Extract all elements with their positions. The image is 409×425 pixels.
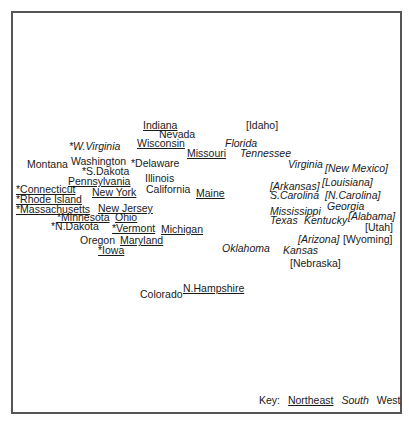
state-label: [Idaho] bbox=[246, 120, 278, 131]
state-label: [Nebraska] bbox=[290, 258, 341, 269]
state-label: Texas bbox=[270, 215, 298, 226]
state-label: *N.Dakota bbox=[51, 221, 99, 232]
state-label: Michigan bbox=[161, 224, 203, 235]
legend-northeast: Northeast bbox=[288, 394, 334, 406]
state-label: Kansas bbox=[283, 245, 318, 256]
legend-west: West bbox=[377, 394, 401, 406]
state-label: [New Mexico] bbox=[325, 163, 388, 174]
state-label: Kentucky bbox=[304, 215, 347, 226]
state-label: N.Hampshire bbox=[183, 283, 244, 294]
state-label: *Iowa bbox=[98, 245, 124, 256]
state-label: Tennessee bbox=[240, 148, 291, 159]
state-label: Virginia bbox=[288, 159, 323, 170]
legend: Key: Northeast South West bbox=[259, 394, 406, 406]
state-label: California bbox=[146, 184, 190, 195]
state-label: [Louisiana] bbox=[322, 177, 373, 188]
legend-south: South bbox=[341, 394, 368, 406]
state-label: New York bbox=[92, 187, 136, 198]
state-label: Oklahoma bbox=[222, 243, 270, 254]
state-label: *Delaware bbox=[131, 158, 179, 169]
legend-prefix: Key: bbox=[259, 394, 280, 406]
state-label: Wisconsin bbox=[137, 138, 185, 149]
state-label: Maryland bbox=[120, 235, 163, 246]
state-label: S.Carolina bbox=[270, 190, 319, 201]
state-label: Missouri bbox=[187, 148, 226, 159]
state-label: Colorado bbox=[140, 289, 183, 300]
state-label: Maine bbox=[196, 188, 225, 199]
state-label: *W.Virginia bbox=[69, 141, 120, 152]
state-label: [Utah] bbox=[365, 222, 393, 233]
state-label: Montana bbox=[27, 159, 68, 170]
state-label: *Vermont bbox=[112, 223, 155, 234]
state-label: [Wyoming] bbox=[343, 234, 393, 245]
